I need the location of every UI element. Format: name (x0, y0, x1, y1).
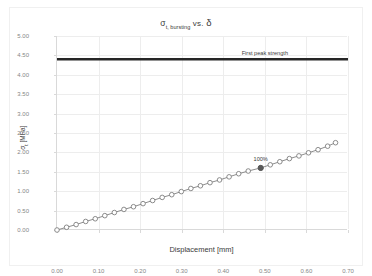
y-tick-label: 1.50 (0, 169, 29, 175)
x-tick-mark (99, 230, 100, 233)
y-tick-label: 0.00 (0, 227, 29, 233)
chart-title-delta: δ (206, 17, 212, 28)
annotation-layer (57, 36, 348, 230)
x-tick-label: 0.10 (81, 268, 117, 274)
first-peak-strength-label: First peak strength (242, 50, 288, 56)
y-tick-label: 4.50 (0, 52, 29, 58)
x-tick-label: 0.50 (247, 268, 283, 274)
gridline-vertical (348, 36, 349, 229)
plot-area: 100%First peak strength 0.000.501.001.50… (56, 36, 347, 230)
x-tick-mark (140, 230, 141, 233)
x-tick-mark (265, 230, 266, 233)
x-tick-label: 0.60 (288, 268, 324, 274)
x-tick-label: 0.70 (330, 268, 366, 274)
chart-title: σt, bursting vs. δ (0, 17, 372, 30)
y-tick-label: 1.00 (0, 188, 29, 194)
y-tick-label: 2.00 (0, 149, 29, 155)
chart-title-subscript: t, bursting (166, 24, 191, 30)
y-axis-title: σt [MPa] (19, 108, 28, 168)
x-tick-mark (223, 230, 224, 233)
x-axis-title: Displacement [mm] (56, 245, 347, 254)
y-tick-label: 3.00 (0, 111, 29, 117)
x-tick-mark (348, 230, 349, 233)
percent-annotation-label: 100% (254, 156, 268, 162)
chart-title-vs: vs. (193, 19, 204, 28)
y-tick-label: 2.50 (0, 130, 29, 136)
y-tick-label: 0.50 (0, 208, 29, 214)
x-tick-mark (306, 230, 307, 233)
x-tick-mark (182, 230, 183, 233)
x-tick-label: 0.30 (164, 268, 200, 274)
x-tick-label: 0.20 (122, 268, 158, 274)
x-tick-label: 0.40 (205, 268, 241, 274)
x-tick-label: 0.00 (39, 268, 75, 274)
y-tick-label: 5.00 (0, 33, 29, 39)
chart-figure: σt, bursting vs. δ σt [MPa] 100%First pe… (0, 0, 372, 276)
y-tick-label: 3.50 (0, 91, 29, 97)
y-tick-label: 4.00 (0, 72, 29, 78)
highlighted-data-point (258, 165, 263, 170)
